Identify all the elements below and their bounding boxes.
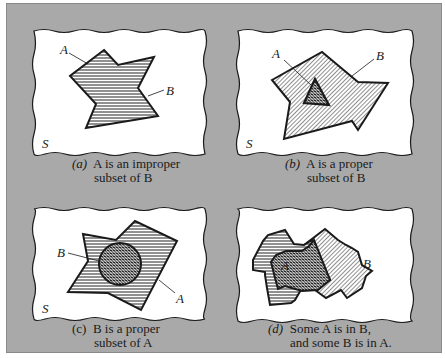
label-s: S <box>246 136 253 151</box>
caption-a-line1: (a) A is an improper <box>72 156 180 171</box>
caption-d: (d) Some A is in B, and some B is in A. <box>268 322 392 350</box>
label-s: S <box>42 136 49 151</box>
caption-d-line1: (d) Some A is in B, <box>268 321 371 336</box>
caption-c: (c) B is a proper subset of A <box>72 322 160 350</box>
panel-b: A B S <box>237 30 414 156</box>
caption-c-line2: subset of A <box>72 336 160 350</box>
set-diagrams: A B S A B S B A S A B <box>0 0 445 358</box>
label-b: B <box>57 245 65 260</box>
panel-a: A B S <box>33 30 207 156</box>
panel-c: B A S <box>33 208 207 321</box>
caption-b-line1: (b) A is a proper <box>285 156 373 171</box>
caption-a: (a) A is an improper subset of B <box>72 157 180 185</box>
caption-b: (b) A is a proper subset of B <box>285 157 373 185</box>
caption-d-line2: and some B is in A. <box>268 336 392 350</box>
label-a: A <box>280 258 289 273</box>
caption-a-line2: subset of B <box>72 171 180 185</box>
label-a: A <box>175 291 184 306</box>
label-a: A <box>59 42 68 57</box>
label-b: B <box>363 256 371 271</box>
label-b: B <box>376 48 384 63</box>
caption-c-line1: (c) B is a proper <box>72 321 160 336</box>
panel-d: A B <box>237 208 414 323</box>
set-b <box>99 243 141 285</box>
label-b: B <box>166 83 174 98</box>
label-a: A <box>271 46 280 61</box>
label-s: S <box>42 301 49 316</box>
caption-b-line2: subset of B <box>285 171 373 185</box>
